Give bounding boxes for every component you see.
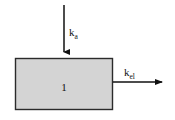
elimination-rate-label-subscript: el bbox=[130, 72, 135, 81]
diagram-canvas: 1 ka kel bbox=[0, 0, 175, 120]
absorption-rate-label: ka bbox=[69, 26, 79, 41]
absorption-rate-label-subscript: a bbox=[75, 32, 79, 41]
compartment-model-diagram: 1 ka kel bbox=[0, 0, 175, 120]
compartment-label: 1 bbox=[61, 81, 67, 93]
elimination-rate-label: kel bbox=[124, 66, 135, 81]
